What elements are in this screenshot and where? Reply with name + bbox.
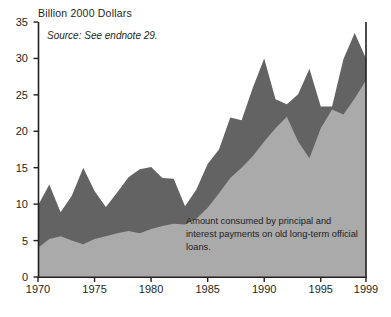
y-tick-label-5: 5 <box>0 235 28 247</box>
y-tick-label-35: 35 <box>0 16 28 28</box>
y-tick-label-15: 15 <box>0 162 28 174</box>
chart-annotation: Amount consumed by principal and interes… <box>186 215 361 255</box>
x-tick-label-1975: 1975 <box>82 283 106 295</box>
x-tick-label-1990: 1990 <box>252 283 276 295</box>
y-tick-label-0: 0 <box>0 271 28 283</box>
chart-container: Billion 2000 Dollars Source: See endnote… <box>0 0 391 317</box>
x-tick-label-1999: 1999 <box>354 283 378 295</box>
x-tick-label-1970: 1970 <box>26 283 50 295</box>
y-tick-label-30: 30 <box>0 52 28 64</box>
chart-plot-area <box>0 0 391 317</box>
y-tick-label-20: 20 <box>0 125 28 137</box>
y-tick-label-10: 10 <box>0 198 28 210</box>
y-tick-label-25: 25 <box>0 89 28 101</box>
x-tick-label-1995: 1995 <box>309 283 333 295</box>
x-tick-label-1985: 1985 <box>195 283 219 295</box>
x-tick-label-1980: 1980 <box>139 283 163 295</box>
